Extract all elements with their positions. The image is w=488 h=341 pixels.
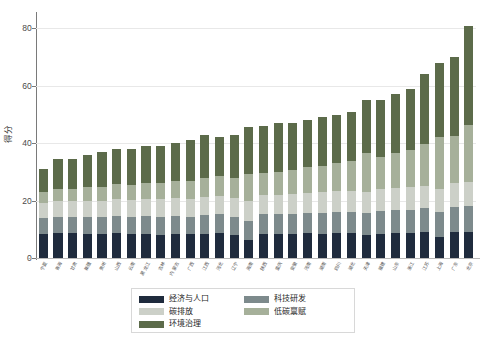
- stacked-bar: [112, 149, 121, 258]
- bar-segment: [274, 123, 283, 172]
- bar-column: [329, 14, 344, 258]
- bar-segment: [83, 187, 92, 201]
- bar-column: [212, 14, 227, 258]
- y-tick-label: 80: [22, 23, 32, 33]
- bar-segment: [288, 170, 297, 194]
- stacked-bar: [420, 74, 429, 258]
- legend-item[interactable]: 环境治理: [139, 318, 244, 331]
- bar-segment: [391, 188, 400, 210]
- bar-segment: [288, 194, 297, 214]
- bar-segment: [362, 213, 371, 235]
- bar-segment: [406, 210, 415, 234]
- bar-segment: [186, 140, 195, 181]
- bar-segment: [435, 212, 444, 237]
- bar-segment: [332, 212, 341, 233]
- stacked-bar: [97, 152, 106, 258]
- bar-segment: [288, 234, 297, 258]
- bar-segment: [376, 211, 385, 233]
- stacked-bar: [156, 146, 165, 258]
- stacked-bar: [215, 137, 224, 258]
- bar-segment: [259, 234, 268, 258]
- bar-column: [80, 14, 95, 258]
- bar-segment: [83, 234, 92, 258]
- bar-column: [51, 14, 66, 258]
- bar-segment: [450, 183, 459, 207]
- x-tick-label: 湖南: [317, 260, 327, 272]
- bar-segment: [230, 135, 239, 178]
- stacked-bar: [200, 135, 209, 258]
- bar-column: [344, 14, 359, 258]
- bar-segment: [303, 120, 312, 167]
- bar-segment: [68, 217, 77, 234]
- bar-segment: [68, 201, 77, 217]
- legend-label: 碳排放: [169, 308, 193, 316]
- legend-swatch: [244, 308, 269, 315]
- bar-segment: [83, 217, 92, 234]
- bar-column: [153, 14, 168, 258]
- x-tick-label: 宁夏: [39, 260, 49, 272]
- bar-segment: [156, 199, 165, 217]
- bar-segment: [39, 234, 48, 258]
- bar-segment: [259, 195, 268, 215]
- legend-item[interactable]: 碳排放: [139, 306, 244, 319]
- bar-segment: [391, 233, 400, 258]
- bar-segment: [362, 192, 371, 214]
- bar-segment: [83, 201, 92, 217]
- bar-segment: [347, 191, 356, 212]
- stacked-bar: [83, 155, 92, 258]
- bar-segment: [200, 178, 209, 197]
- bar-segment: [39, 218, 48, 234]
- stacked-bar: [39, 169, 48, 258]
- stacked-bar: [435, 63, 444, 258]
- bar-segment: [68, 159, 77, 189]
- stacked-bar: [127, 149, 136, 258]
- x-tick-label: 福建: [376, 260, 386, 272]
- bar-segment: [362, 153, 371, 192]
- y-axis-tick-labels: 020406080: [0, 0, 32, 341]
- bar-segment: [303, 167, 312, 192]
- bar-segment: [376, 189, 385, 211]
- bar-segment: [53, 217, 62, 233]
- bar-segment: [347, 161, 356, 190]
- legend-item[interactable]: 科技研发: [244, 293, 349, 306]
- x-tick-label: 内蒙古: [168, 260, 180, 276]
- y-tick-label: 60: [22, 81, 32, 91]
- bar-segment: [53, 159, 62, 189]
- bar-segment: [274, 214, 283, 234]
- bar-segment: [259, 173, 268, 195]
- plot-area: [36, 14, 476, 258]
- bar-segment: [230, 235, 239, 258]
- bar-segment: [362, 235, 371, 258]
- bar-segment: [376, 157, 385, 189]
- bar-segment: [171, 143, 180, 181]
- bar-segment: [127, 185, 136, 201]
- bar-segment: [435, 189, 444, 212]
- x-tick-label: 山西: [112, 260, 122, 272]
- legend-item[interactable]: 经济与人口: [139, 293, 244, 306]
- bar-column: [36, 14, 51, 258]
- bar-segment: [215, 137, 224, 176]
- x-tick-cell: 上海: [432, 259, 447, 295]
- x-tick-label: 广东: [449, 260, 459, 272]
- stacked-bar: [464, 26, 473, 258]
- bar-column: [139, 14, 154, 258]
- bar-segment: [141, 183, 150, 199]
- bar-segment: [464, 232, 473, 258]
- x-tick-label: 黑龙江: [139, 260, 151, 276]
- bar-column: [388, 14, 403, 258]
- bar-column: [315, 14, 330, 258]
- bar-segment: [97, 201, 106, 217]
- bar-segment: [141, 146, 150, 183]
- bar-column: [241, 14, 256, 258]
- bar-column: [168, 14, 183, 258]
- bar-column: [432, 14, 447, 258]
- stacked-bar: [53, 159, 62, 258]
- bar-segment: [450, 57, 459, 136]
- bar-segment: [259, 126, 268, 173]
- bar-segment: [303, 233, 312, 258]
- legend-item[interactable]: 低碳禀赋: [244, 306, 349, 319]
- bar-segment: [112, 184, 121, 199]
- stacked-bar: [303, 120, 312, 258]
- x-tick-label: 辽宁: [229, 260, 239, 272]
- stacked-bar: [141, 146, 150, 258]
